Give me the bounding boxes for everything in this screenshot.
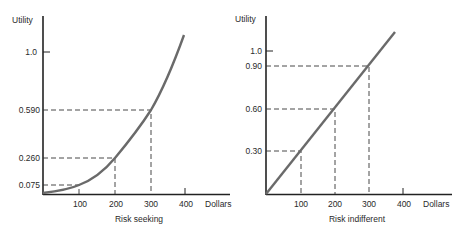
xtick-label-100: 100 xyxy=(73,199,87,209)
ytick-label-0.260: 0.260 xyxy=(19,153,41,163)
ylabel: Utility xyxy=(235,14,257,24)
xtick-label-100: 100 xyxy=(294,199,308,209)
ytick-label-1.0: 1.0 xyxy=(250,46,262,56)
xlabel: Dollars xyxy=(205,199,231,209)
ylabel: Utility xyxy=(12,15,34,25)
risk-seeking-chart: Utility 1.0 0.590 0.260 0.075 100 200 30… xyxy=(12,15,231,224)
xtick-label-300: 300 xyxy=(362,199,376,209)
utility-curve xyxy=(43,35,184,193)
ytick-label-1.0: 1.0 xyxy=(25,47,37,57)
xtick-label-300: 300 xyxy=(144,199,158,209)
caption: Risk indifferent xyxy=(329,214,386,224)
caption: Risk seeking xyxy=(115,214,163,224)
utility-line xyxy=(266,32,395,194)
xtick-label-200: 200 xyxy=(109,199,123,209)
charts-canvas: Utility 1.0 0.590 0.260 0.075 100 200 30… xyxy=(0,0,461,232)
ytick-label-0.90: 0.90 xyxy=(245,61,262,71)
ytick-label-0.60: 0.60 xyxy=(245,104,262,114)
xtick-label-400: 400 xyxy=(397,199,411,209)
xlabel: Dollars xyxy=(423,199,449,209)
guide-lines xyxy=(43,110,151,194)
ytick-label-0.30: 0.30 xyxy=(245,146,262,156)
risk-indifferent-chart: Utility 1.0 0.90 0.60 0.30 100 200 300 4… xyxy=(235,14,452,224)
ytick-label-0.590: 0.590 xyxy=(19,105,41,115)
ytick-label-0.075: 0.075 xyxy=(19,180,41,190)
xtick-label-200: 200 xyxy=(328,199,342,209)
xtick-label-400: 400 xyxy=(179,199,193,209)
